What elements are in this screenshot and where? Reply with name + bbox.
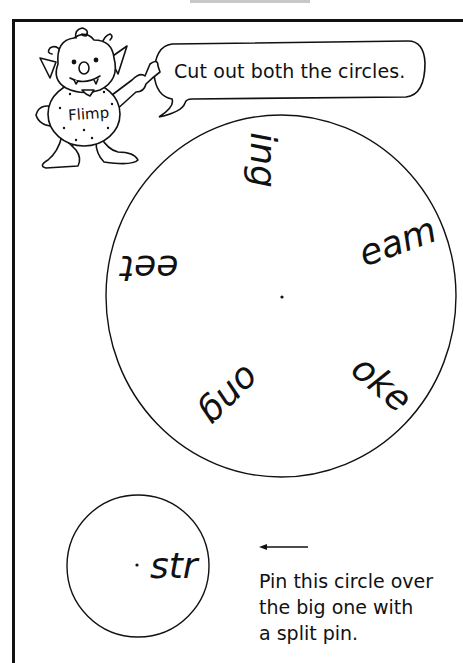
instruction-line: a split pin. — [259, 620, 433, 646]
left-arrow-icon — [259, 544, 308, 550]
small-circle-word: str — [150, 548, 198, 584]
big-circle-word: ing — [245, 132, 281, 188]
pin-instructions: Pin this circle over the big one with a … — [259, 568, 433, 646]
big-circle-center-dot — [280, 295, 283, 298]
instruction-line: Pin this circle over — [259, 568, 433, 594]
character-name-label: Flimp — [67, 104, 109, 125]
speech-bubble-text: Cut out both the circles. — [174, 60, 405, 82]
big-circle-word: eet — [120, 250, 178, 286]
small-circle-center-dot — [135, 563, 138, 566]
flimp-character-icon — [36, 28, 160, 168]
worksheet-artwork — [0, 0, 463, 663]
instruction-line: the big one with — [259, 594, 433, 620]
